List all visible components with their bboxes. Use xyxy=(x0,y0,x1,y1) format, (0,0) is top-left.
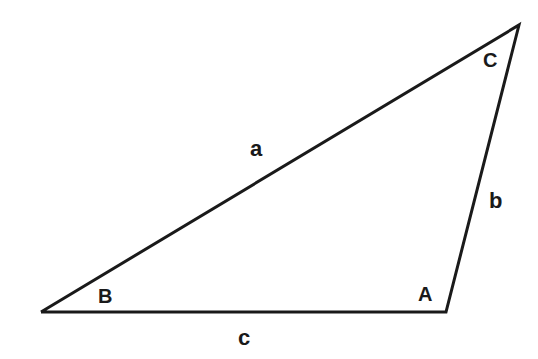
triangle-figure xyxy=(0,0,538,359)
vertex-label-b: B xyxy=(98,286,112,306)
side-label-a: a xyxy=(250,138,262,160)
vertex-label-c: C xyxy=(483,50,497,70)
side-label-c: c xyxy=(238,327,250,349)
triangle-outline xyxy=(41,25,519,312)
vertex-label-a: A xyxy=(418,284,432,304)
side-label-b: b xyxy=(489,190,502,212)
diagram-canvas: B A C a b c xyxy=(0,0,538,359)
